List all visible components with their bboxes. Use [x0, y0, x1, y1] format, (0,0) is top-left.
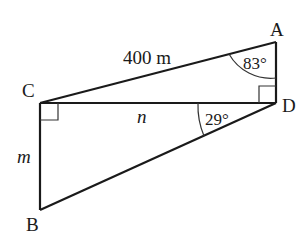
angle-label-d: 29° [205, 110, 229, 129]
segment-label-cb: m [17, 146, 31, 167]
segment-label-cd: n [137, 106, 147, 127]
point-label-c: C [22, 80, 35, 101]
triangle-diagram: A D C B 400 m n m 83° 29° [0, 0, 308, 247]
right-angle-marker-d [259, 86, 276, 103]
point-label-a: A [270, 19, 284, 40]
angle-arc-d [198, 103, 204, 136]
angle-label-a: 83° [243, 54, 267, 73]
point-label-b: B [26, 214, 39, 235]
right-angle-marker-c [40, 103, 58, 120]
segment-label-ac: 400 m [123, 47, 171, 68]
point-label-d: D [282, 95, 296, 116]
segment-bd [40, 103, 276, 210]
